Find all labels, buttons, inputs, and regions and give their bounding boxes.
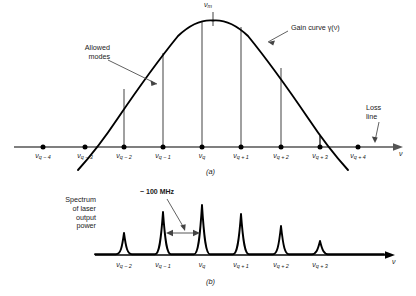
peak-frequency-label: νm [204, 1, 212, 10]
freq-tick-label: νq [199, 261, 206, 269]
allowed-modes-label: Allowed modes [58, 44, 110, 62]
dot-q+1 [239, 145, 244, 150]
panel-b-caption: (b) [206, 277, 215, 286]
linewidth-leader [167, 199, 186, 231]
loss-line-leader [372, 122, 379, 143]
panel-a-graphics [14, 12, 403, 170]
gain-curve-label: Gain curve γ(ν) [291, 24, 340, 33]
dot-q+2 [279, 145, 284, 150]
mode-spacing-arrow [166, 230, 200, 236]
loss-line-label: Loss line [366, 104, 381, 122]
dot-q-1 [161, 145, 166, 150]
panel-b-graphics [95, 199, 395, 259]
freq-tick-label: νq − 4 [35, 152, 51, 160]
freq-tick-label: νq + 2 [273, 261, 289, 269]
freq-tick-label: νq + 2 [273, 152, 289, 160]
freq-tick-label: νq + 4 [350, 152, 366, 160]
dot-q [200, 145, 205, 150]
freq-tick-label: νq − 3 [77, 152, 93, 160]
spectrum-title-label: Spectrum of laser output power [34, 196, 96, 231]
freq-tick-label: νq − 2 [116, 152, 132, 160]
panel-a-caption: (a) [206, 167, 215, 176]
dot-q+4 [356, 145, 361, 150]
freq-tick-label: νq − 2 [116, 261, 132, 269]
axis-label-nu-a: ν [399, 150, 403, 157]
output-spectrum-trace [95, 205, 384, 254]
laser-mode-figure: νm Gain curve γ(ν) Allowed modes Loss li… [0, 0, 416, 296]
freq-tick-label: νq [199, 152, 206, 160]
freq-tick-label: νq + 1 [233, 261, 249, 269]
linewidth-label: ~ 100 MHz [140, 188, 174, 197]
dot-q-3 [83, 145, 88, 150]
dot-q+3 [318, 145, 323, 150]
axis-label-nu-b: ν [392, 258, 396, 265]
gain-curve-leader [268, 31, 288, 46]
freq-tick-label: νq + 3 [312, 261, 328, 269]
freq-tick-label: νq + 3 [312, 152, 328, 160]
dot-q-4 [41, 145, 46, 150]
freq-tick-label: νq + 1 [233, 152, 249, 160]
freq-tick-label: νq − 1 [155, 261, 171, 269]
freq-tick-label: νq − 1 [155, 152, 171, 160]
dot-q-2 [122, 145, 127, 150]
